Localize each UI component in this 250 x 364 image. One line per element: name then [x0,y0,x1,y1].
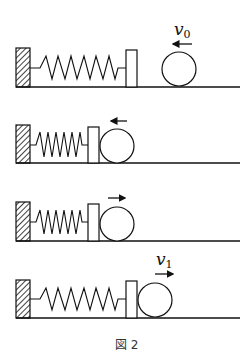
ball [138,283,172,317]
block [88,204,99,241]
panel-1: v0 [16,19,240,87]
ball [100,207,134,241]
block [126,281,137,318]
panel-2 [16,121,240,163]
spring [30,288,126,310]
velocity-label-v0: v0 [174,19,191,41]
block [126,50,137,87]
spring-compressed [30,132,88,157]
wall [16,125,30,163]
panel-4: v1 [16,249,240,318]
figure-caption: 図 2 [115,338,138,352]
velocity-label-v1: v1 [156,249,173,271]
spring-compressed [30,210,88,234]
panel-3 [16,198,240,241]
block [88,127,99,163]
wall [16,48,30,87]
ball [100,129,134,163]
spring [30,56,126,79]
wall [16,280,30,318]
spring-ball-diagram: v0 v1 図 2 [0,0,250,364]
ball [162,52,196,86]
wall [16,202,30,241]
